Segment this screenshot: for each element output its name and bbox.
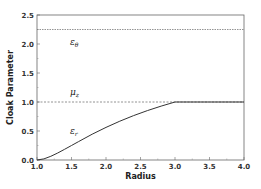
curve-label-θ: εθ <box>70 37 79 48</box>
x-tick-label: 4.0 <box>238 163 251 171</box>
y-tick-label: 1.5 <box>22 70 35 78</box>
x-tick-label: 2.5 <box>134 163 147 171</box>
x-tick-label: 3.0 <box>169 163 182 171</box>
chart: 1.01.52.02.53.03.54.00.00.51.01.52.02.5R… <box>0 0 261 189</box>
y-tick-label: 0.5 <box>22 128 35 136</box>
curve-label-z: μz <box>70 87 80 98</box>
plot-frame <box>37 15 244 160</box>
plot-area: 1.01.52.02.53.03.54.00.00.51.01.52.02.5R… <box>6 12 250 182</box>
y-axis-title: Cloak Parameter <box>6 50 15 125</box>
x-axis-title: Radius <box>125 172 156 181</box>
y-tick-label: 0.0 <box>22 157 35 165</box>
y-tick-label: 1.0 <box>22 99 35 107</box>
x-tick-label: 1.5 <box>65 163 78 171</box>
x-tick-label: 2.0 <box>100 163 113 171</box>
y-tick-label: 2.0 <box>22 41 35 49</box>
x-tick-label: 3.5 <box>203 163 216 171</box>
y-tick-label: 2.5 <box>22 12 35 20</box>
series-line-r <box>37 102 244 160</box>
curve-label-r: εr <box>70 126 79 137</box>
